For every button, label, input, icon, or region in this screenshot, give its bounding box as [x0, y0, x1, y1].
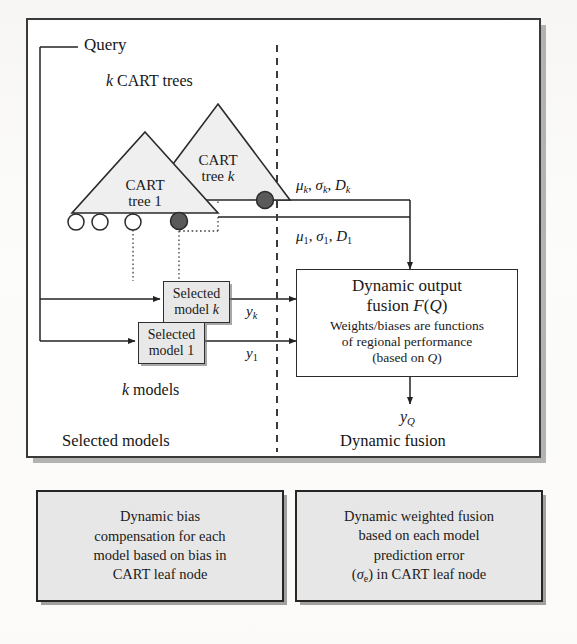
cart-trees-caption: k CART trees — [106, 72, 193, 90]
fusion-title: Dynamic output fusion F(Q) — [297, 276, 517, 316]
fusion-title-line2: fusion F(Q) — [297, 296, 517, 316]
cart-tree-k-line1: CART — [168, 152, 268, 168]
stats-label-k: μk, σk, Dk — [296, 177, 350, 195]
section-label-right: Dynamic fusion — [340, 432, 446, 450]
cart-tree-1-label: CART tree 1 — [95, 177, 195, 209]
selected-model-1-box[interactable]: Selected model 1 — [138, 322, 205, 364]
selected-model-1-line2: model 1 — [148, 343, 195, 359]
fusion-title-line1: Dynamic output — [297, 276, 517, 296]
output-yk-label: yk — [246, 303, 257, 321]
selected-model-k-box[interactable]: Selected model k — [163, 281, 230, 323]
fusion-output-label: yQ — [400, 408, 415, 427]
fusion-sub-line2: of regional performance — [297, 334, 517, 350]
cart-tree-1-line1: CART — [95, 177, 195, 193]
section-label-left: Selected models — [62, 432, 170, 450]
callout-1-line-1: Dynamic bias — [94, 507, 227, 526]
callout-2-line-2: based on each model — [344, 526, 494, 545]
callout-1-line-4: CART leaf node — [94, 565, 227, 584]
fusion-sub-line3: (based on Q) — [297, 350, 517, 366]
fusion-sub-line1: Weights/biases are functions — [297, 318, 517, 334]
callout-2-line-1: Dynamic weighted fusion — [344, 507, 494, 526]
callout-dynamic-bias-compensation[interactable]: Dynamic bias compensation for each model… — [36, 490, 284, 602]
callout-1-line-2: compensation for each — [94, 527, 227, 546]
query-label: Query — [84, 35, 126, 54]
main-diagram-panel — [26, 18, 541, 458]
callout-2-line-4: (σe) in CART leaf node — [344, 565, 494, 585]
callout-2-line-3: prediction error — [344, 546, 494, 565]
selected-model-1-line1: Selected — [148, 327, 195, 343]
fusion-subtext: Weights/biases are functions of regional… — [297, 318, 517, 367]
output-y1-label: y1 — [246, 345, 258, 363]
callout-dynamic-weighted-fusion[interactable]: Dynamic weighted fusion based on each mo… — [295, 490, 543, 602]
cart-tree-1-line2: tree 1 — [95, 193, 195, 209]
figure-root: Query k CART trees CART tree k CART tree… — [0, 0, 577, 644]
dynamic-output-fusion-box[interactable]: Dynamic output fusion F(Q) Weights/biase… — [296, 269, 518, 377]
k-models-caption: k models — [122, 381, 179, 399]
selected-model-k-line1: Selected — [173, 286, 220, 302]
callout-1-line-3: model based on bias in — [94, 546, 227, 565]
selected-model-k-line2: model k — [173, 302, 220, 318]
cart-trees-caption-rest: CART trees — [113, 72, 193, 89]
stats-label-1: μ1, σ1, D1 — [296, 228, 352, 246]
